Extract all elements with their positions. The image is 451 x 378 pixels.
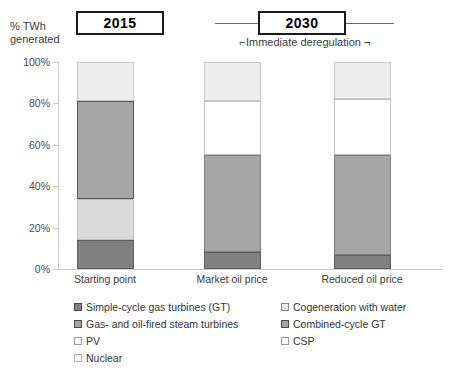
legend-label-simple: Simple-cycle gas turbines (GT)	[86, 301, 230, 313]
y-axis-tickmark	[53, 145, 58, 146]
legend-column-left: Simple-cycle gas turbines (GT)Gas- and o…	[74, 298, 279, 366]
y-axis-tickmark	[53, 228, 58, 229]
y-axis-tickmark	[53, 269, 58, 270]
bar-segment-pv	[77, 199, 134, 240]
bar-segment-csp	[204, 101, 261, 155]
legend-swatch-cogen-icon	[281, 303, 289, 311]
y-axis-tickmark	[53, 62, 58, 63]
bar-starting-point	[77, 62, 134, 269]
legend: Simple-cycle gas turbines (GT)Gas- and o…	[74, 298, 444, 368]
legend-label-nuclear: Nuclear	[86, 352, 122, 364]
bar-segment-csp	[334, 99, 391, 155]
bar-segment-steam	[77, 101, 134, 198]
y-axis-tickmark	[53, 186, 58, 187]
x-axis-category-label: Reduced oil price	[302, 273, 422, 285]
bar-segment-ccgt	[204, 155, 261, 252]
y-axis-tick-20: 20%	[8, 223, 50, 233]
legend-item-simple[interactable]: Simple-cycle gas turbines (GT)	[74, 298, 279, 315]
legend-swatch-pv-icon	[74, 337, 82, 345]
bar-segment-simple	[334, 255, 391, 269]
legend-label-ccgt: Combined-cycle GT	[293, 318, 386, 330]
legend-column-right: Cogeneration with waterCombined-cycle GT…	[281, 298, 446, 349]
legend-label-steam: Gas- and oil-fired steam turbines	[86, 318, 238, 330]
bar-market-oil-price	[204, 62, 261, 269]
x-axis-category-label: Starting point	[45, 273, 165, 285]
period-label-2030: 2030	[258, 11, 346, 35]
legend-item-cogen[interactable]: Cogeneration with water	[281, 298, 446, 315]
bar-segment-simple	[204, 252, 261, 269]
y-axis-tick-labels: 0%20%40%60%80%100%	[0, 0, 50, 378]
plot-area	[58, 62, 443, 269]
y-axis-tick-0: 0%	[8, 264, 50, 274]
y-axis-tick-100: 100%	[8, 57, 50, 67]
bar-reduced-oil-price	[334, 62, 391, 269]
period-rule-left	[215, 23, 261, 24]
bar-segment-simple	[77, 240, 134, 269]
x-axis-category-label: Market oil price	[172, 273, 292, 285]
deregulation-annotation: ⌐Immediate deregulation ¬	[215, 36, 395, 48]
legend-item-ccgt[interactable]: Combined-cycle GT	[281, 315, 446, 332]
x-axis-line	[58, 269, 443, 270]
legend-item-csp[interactable]: CSP	[281, 332, 446, 349]
stacked-bar-chart: % TWh generated 2015 2030 ⌐Immediate der…	[0, 0, 451, 378]
legend-label-pv: PV	[86, 335, 100, 347]
y-axis-tick-40: 40%	[8, 181, 50, 191]
legend-item-pv[interactable]: PV	[74, 332, 279, 349]
y-axis-tickmark	[53, 103, 58, 104]
legend-swatch-csp-icon	[281, 337, 289, 345]
period-label-2015-text: 2015	[103, 15, 136, 31]
period-label-2030-text: 2030	[285, 15, 318, 31]
bar-segment-cogen	[77, 62, 134, 101]
period-rule-right	[344, 23, 394, 24]
legend-swatch-ccgt-icon	[281, 320, 289, 328]
bar-segment-cogen	[204, 62, 261, 101]
legend-swatch-steam-icon	[74, 320, 82, 328]
y-axis-tick-60: 60%	[8, 140, 50, 150]
legend-label-cogen: Cogeneration with water	[293, 301, 406, 313]
legend-swatch-nuclear-icon	[74, 354, 82, 362]
bar-segment-ccgt	[334, 155, 391, 254]
legend-item-steam[interactable]: Gas- and oil-fired steam turbines	[74, 315, 279, 332]
legend-item-nuclear[interactable]: Nuclear	[74, 349, 279, 366]
bar-segment-cogen	[334, 62, 391, 99]
legend-label-csp: CSP	[293, 335, 315, 347]
legend-swatch-simple-icon	[74, 303, 82, 311]
y-axis-tick-80: 80%	[8, 98, 50, 108]
deregulation-annotation-text: ⌐Immediate deregulation ¬	[240, 36, 371, 48]
period-label-2015: 2015	[76, 11, 164, 35]
